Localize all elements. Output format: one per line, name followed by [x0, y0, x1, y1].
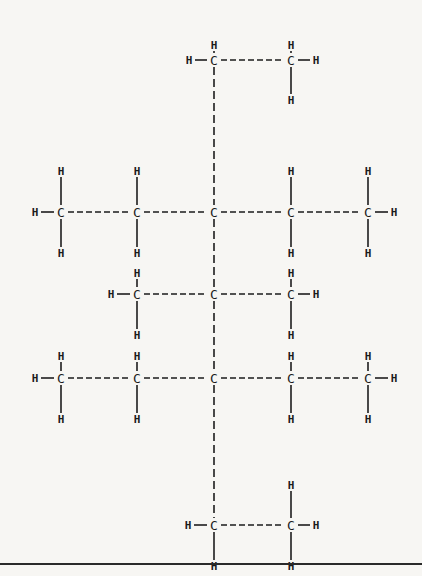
hydrogen-atom-h9: H	[134, 166, 141, 177]
hydrogen-atom-h12: H	[288, 248, 295, 259]
hydrogen-atom-h30: H	[391, 373, 398, 384]
hydrogen-atom-h28: H	[288, 414, 295, 425]
carbon-atom-c2: C	[287, 54, 295, 67]
structural-formula-diagram: CCCCCCCCCCCCCCCCCHHHHHHHHHHHHHHHHHHHHHHH…	[0, 0, 422, 576]
hydrogen-atom-h23: H	[288, 351, 295, 362]
hydrogen-atom-h17: H	[108, 289, 115, 300]
hydrogen-atom-h24: H	[58, 351, 65, 362]
hydrogen-atom-h22: H	[134, 351, 141, 362]
bottom-rule-divider	[0, 563, 422, 565]
carbon-atom-c13: C	[210, 372, 218, 385]
hydrogen-atom-h25: H	[32, 373, 39, 384]
hydrogen-atom-h8: H	[58, 248, 65, 259]
carbon-atom-c15: C	[364, 372, 372, 385]
carbon-atom-c17: C	[287, 519, 295, 532]
carbon-atom-c10: C	[287, 288, 295, 301]
hydrogen-atom-h29: H	[365, 351, 372, 362]
hydrogen-atom-h4: H	[313, 55, 320, 66]
hydrogen-atom-h16: H	[134, 268, 141, 279]
hydrogen-atom-h14: H	[391, 207, 398, 218]
hydrogen-atom-h19: H	[288, 268, 295, 279]
hydrogen-atom-h32: H	[288, 480, 295, 491]
hydrogen-atom-h21: H	[288, 330, 295, 341]
hydrogen-atom-h31: H	[365, 414, 372, 425]
hydrogen-atom-h15: H	[365, 248, 372, 259]
carbon-atom-c12: C	[133, 372, 141, 385]
carbon-atom-c3: C	[57, 206, 65, 219]
hydrogen-atom-h26: H	[58, 414, 65, 425]
carbon-atom-c14: C	[287, 372, 295, 385]
hydrogen-atom-h18: H	[134, 330, 141, 341]
carbon-atom-c11: C	[57, 372, 65, 385]
hydrogen-atom-h20: H	[313, 289, 320, 300]
hydrogen-atom-h5: H	[288, 95, 295, 106]
hydrogen-atom-h2: H	[186, 55, 193, 66]
carbon-atom-c1: C	[210, 54, 218, 67]
carbon-atom-c4: C	[133, 206, 141, 219]
hydrogen-atom-h13: H	[365, 166, 372, 177]
carbon-atom-c9: C	[210, 288, 218, 301]
hydrogen-atom-h6: H	[58, 166, 65, 177]
hydrogen-atom-h3: H	[288, 40, 295, 51]
carbon-atom-c5: C	[210, 206, 218, 219]
hydrogen-atom-h27: H	[134, 414, 141, 425]
carbon-atom-c8: C	[133, 288, 141, 301]
hydrogen-atom-h34: H	[313, 520, 320, 531]
hydrogen-atom-h33: H	[185, 520, 192, 531]
hydrogen-atom-h1: H	[211, 40, 218, 51]
hydrogen-atom-h11: H	[288, 166, 295, 177]
carbon-atom-c16: C	[210, 519, 218, 532]
hydrogen-atom-h10: H	[134, 248, 141, 259]
carbon-atom-c6: C	[287, 206, 295, 219]
carbon-atom-c7: C	[364, 206, 372, 219]
hydrogen-atom-h7: H	[32, 207, 39, 218]
